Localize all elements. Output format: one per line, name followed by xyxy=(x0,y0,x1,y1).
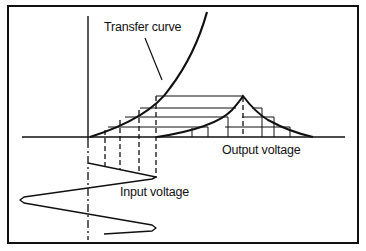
transfer-curve-label: Transfer curve xyxy=(104,20,181,34)
transfer-curve-pointer xyxy=(145,38,162,80)
transfer-characteristic-diagram xyxy=(0,0,366,251)
output-ticks xyxy=(192,108,290,137)
diagram-frame xyxy=(8,6,358,243)
input-voltage-label: Input voltage xyxy=(120,185,189,199)
projection-lines-horizontal xyxy=(108,96,290,127)
output-voltage-label: Output voltage xyxy=(222,143,301,157)
